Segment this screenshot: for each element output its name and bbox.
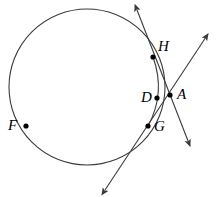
point-dot-d: [154, 95, 159, 100]
point-dot-g: [145, 123, 150, 128]
point-label-h: H: [158, 39, 169, 54]
geometry-diagram: H A D G F: [0, 0, 216, 197]
point-label-g: G: [154, 119, 165, 134]
point-label-d: D: [141, 90, 152, 105]
main-circle: [9, 9, 165, 165]
point-label-a: A: [177, 87, 186, 102]
point-dot-f: [23, 123, 28, 128]
point-dot-h: [150, 54, 155, 59]
point-label-f: F: [8, 118, 17, 133]
secant-line-through-G-and-A: [105, 34, 208, 190]
point-dot-a: [167, 92, 172, 97]
